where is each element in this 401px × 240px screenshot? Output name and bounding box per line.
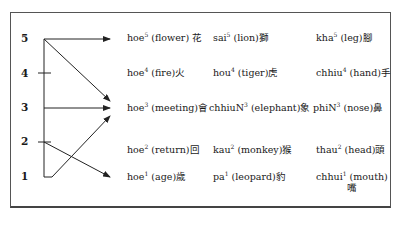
example-hou4: hou4 (tiger)虎 — [213, 67, 278, 78]
example-thau2: thau2 (head)頭 — [316, 144, 385, 155]
example-hoe1: hoe1 (age)歲 — [127, 171, 186, 182]
example-hoe3: hoe3 (meeting)會 — [127, 102, 208, 113]
arrow-5-to-3 — [44, 39, 110, 101]
example-chhiu4: chhiu4 (hand)手 — [316, 67, 391, 78]
arrow-2-to-1 — [44, 142, 110, 177]
tone-label-2: 2 — [21, 135, 28, 147]
tone-label-5: 5 — [21, 32, 28, 44]
example-hoe2: hoe2 (return)回 — [127, 144, 200, 155]
example-sai5: sai5 (lion)獅 — [213, 32, 269, 43]
example-hoe4: hoe4 (fire)火 — [127, 67, 185, 78]
tone-label-1: 1 — [21, 170, 28, 182]
example-kha5: kha5 (leg)腳 — [316, 32, 373, 43]
example-phiN3: phiN3 (nose)鼻 — [313, 102, 383, 113]
arrow-1-to-3 — [44, 116, 110, 177]
example-chhui1: chhui1 (mouth) 嘴 — [316, 171, 388, 193]
example-chhiuN3: chhiuN3 (elephant)象 — [209, 102, 310, 113]
example-kau2: kau2 (monkey)猴 — [213, 144, 292, 155]
tone-label-4: 4 — [21, 67, 28, 79]
example-pa1: pa1 (leopard)豹 — [213, 171, 286, 182]
example-hoe5: hoe5 (flower) 花 — [127, 32, 202, 43]
tone-label-3: 3 — [21, 101, 28, 113]
